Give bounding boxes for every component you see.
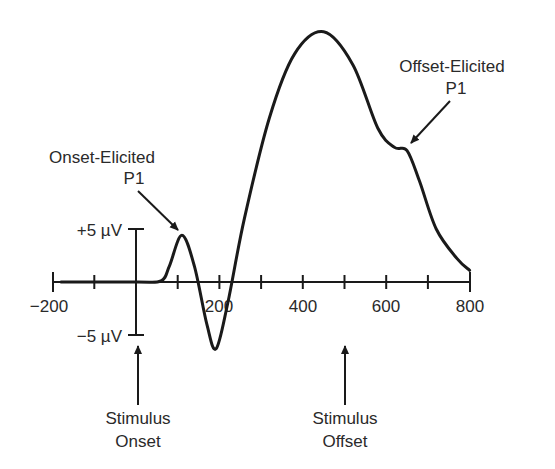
onset-p1-label-line2: P1	[124, 169, 145, 188]
onset-p1-arrow	[138, 191, 178, 230]
x-tick-label-600: 600	[372, 297, 400, 316]
stimulus-onset-label-line1: Stimulus	[105, 409, 170, 428]
onset-p1-label-line1: Onset-Elicited	[49, 148, 155, 167]
offset-p1-label-line1: Offset-Elicited	[399, 57, 505, 76]
stimulus-onset-label-line2: Onset	[115, 432, 161, 451]
y-label-positive: +5 µV	[77, 221, 123, 240]
stimulus-offset-label-line2: Offset	[322, 432, 367, 451]
offset-p1-label-line2: P1	[446, 79, 467, 98]
offset-p1-arrow	[411, 101, 450, 143]
erp-chart: +5 µV −5 µV −200 200 400 600 800 Onset-E…	[0, 0, 555, 469]
x-tick-label-800: 800	[456, 297, 484, 316]
erp-waveform	[61, 32, 470, 350]
stimulus-offset-label-line1: Stimulus	[312, 409, 377, 428]
y-label-negative: −5 µV	[77, 327, 123, 346]
x-tick-label-minus200: −200	[30, 297, 68, 316]
x-tick-label-400: 400	[289, 297, 317, 316]
